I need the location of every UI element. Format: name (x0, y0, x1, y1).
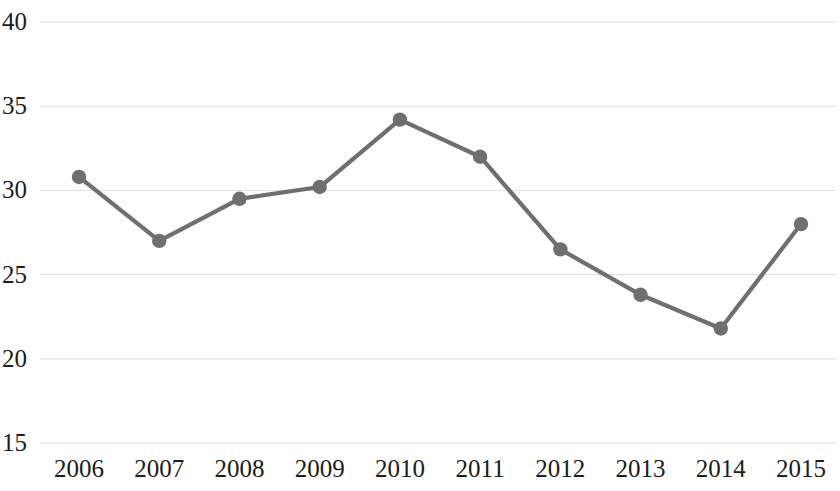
x-axis-tick-label: 2009 (295, 456, 345, 481)
data-point-marker (232, 192, 246, 206)
data-series-line (79, 120, 801, 329)
chart-plot-area (0, 0, 840, 491)
x-axis-tick-label: 2007 (134, 456, 184, 481)
data-point-marker (393, 112, 407, 126)
y-axis-tick-label: 40 (2, 9, 27, 34)
x-axis-tick-label: 2014 (696, 456, 746, 481)
data-point-marker (553, 242, 567, 256)
y-axis-tick-label: 25 (2, 262, 27, 287)
x-axis-tick-label: 2013 (616, 456, 666, 481)
line-chart: 403530252015 200620072008200920102011201… (0, 0, 840, 491)
y-axis-tick-label: 15 (2, 430, 27, 455)
data-point-marker (714, 321, 728, 335)
x-axis-tick-label: 2006 (54, 456, 104, 481)
x-axis-tick-label: 2011 (456, 456, 505, 481)
y-axis-tick-label: 35 (2, 93, 27, 118)
data-point-marker (633, 288, 647, 302)
data-point-marker (152, 234, 166, 248)
x-axis-tick-label: 2010 (375, 456, 425, 481)
data-point-marker (794, 217, 808, 231)
x-axis-tick-label: 2008 (214, 456, 264, 481)
x-axis-tick-label: 2015 (776, 456, 826, 481)
data-point-marker (473, 150, 487, 164)
data-point-marker-group (72, 112, 808, 335)
gridline-group (40, 22, 836, 443)
data-point-marker (312, 180, 326, 194)
x-axis-tick-label: 2012 (535, 456, 585, 481)
y-axis-tick-label: 30 (2, 177, 27, 202)
y-axis-tick-label: 20 (2, 346, 27, 371)
data-point-marker (72, 170, 86, 184)
